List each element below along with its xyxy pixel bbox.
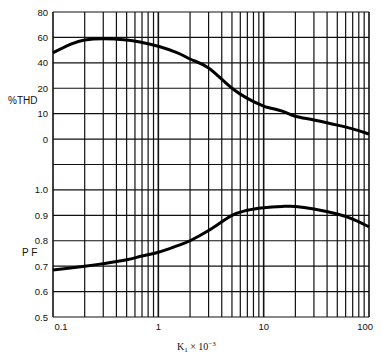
thd-tick-label: 60	[37, 32, 48, 43]
x-tick-label: 10	[258, 321, 269, 332]
pf-tick-label: 0.8	[35, 235, 48, 246]
pf-tick-label: 1.0	[35, 184, 48, 195]
x-tick-label: 0.1	[54, 321, 67, 332]
thd-tick-label: 20	[37, 83, 48, 94]
pf-tick-label: 0.7	[35, 261, 48, 272]
x-axis-label: K1 × 10−3	[177, 340, 216, 354]
pf-tick-label: 0.6	[35, 286, 48, 297]
thd-curve	[53, 39, 369, 134]
thd-tick-label: 40	[37, 57, 48, 68]
thd-tick-label: 10	[37, 108, 48, 119]
thd-tick-label: 80	[37, 7, 48, 18]
thd-pf-chart: 806040201001.00.90.80.70.60.50.1110100 %…	[0, 0, 383, 356]
x-tick-label: 1	[156, 321, 161, 332]
x-tick-label: 100	[357, 321, 373, 332]
pf-tick-label: 0.5	[35, 312, 48, 323]
pf-axis-label: P F	[22, 247, 37, 258]
thd-tick-label: 0	[43, 134, 48, 145]
thd-axis-label: %THD	[8, 95, 37, 106]
tick-labels: 806040201001.00.90.80.70.60.50.1110100	[35, 7, 373, 333]
grid-lines	[53, 12, 369, 317]
pf-tick-label: 0.9	[35, 210, 48, 221]
curves	[53, 39, 369, 270]
